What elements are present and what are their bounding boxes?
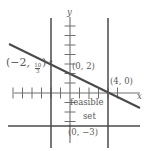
label-intercept-x: (4, 0) [110,77,133,86]
label-vertex-0-minus-3: (0, −3) [68,128,98,137]
y-axis-label: y [67,8,72,17]
label-vertex-minus2-10over3-suffix: ) [42,56,46,69]
label-vertex-minus2-10over3-prefix: (−2, [6,56,34,69]
feasible-set-label-line2: set [83,112,96,121]
fraction-denominator: 3 [35,68,40,75]
x-axis-label: x [137,92,142,101]
feasible-set-label-line1: feasible [70,98,104,107]
label-intercept-y: (0, 2) [72,62,95,71]
vertex-dot-0-2 [69,73,72,76]
vertex-dot-minus2-10over3 [50,60,53,63]
vertex-dot-4-0 [107,92,110,95]
label-vertex-minus2-10over3: (−2, 103) [6,57,46,75]
y-axis [65,17,76,143]
feasible-region-figure: y x (−2, 103) (0, 2) (4, 0) (0, −3) feas… [0,0,148,151]
fraction-10-over-3: 103 [34,63,42,75]
